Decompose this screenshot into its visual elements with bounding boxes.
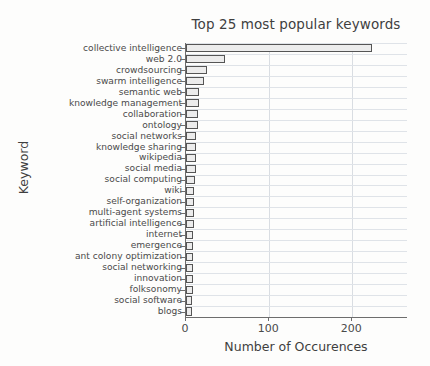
x-axis-line bbox=[185, 317, 407, 318]
y-axis-tick-label: knowledge management bbox=[4, 99, 182, 108]
bar[interactable] bbox=[186, 66, 207, 74]
bar-row[interactable] bbox=[186, 175, 408, 186]
bar[interactable] bbox=[186, 110, 198, 118]
y-axis-tick-label: ant colony optimization bbox=[4, 252, 182, 261]
x-axis-tick-mark bbox=[351, 317, 352, 321]
bar[interactable] bbox=[186, 286, 193, 294]
bar[interactable] bbox=[186, 99, 199, 107]
y-axis-tick-label: collective intelligence bbox=[4, 44, 182, 53]
bar-row[interactable] bbox=[186, 207, 408, 218]
y-axis-tick-label: emergence bbox=[4, 241, 182, 250]
bar[interactable] bbox=[186, 264, 193, 272]
bar[interactable] bbox=[186, 253, 193, 261]
y-axis-tick-label: multi-agent systems bbox=[4, 208, 182, 217]
bar[interactable] bbox=[186, 88, 199, 96]
bar-row[interactable] bbox=[186, 131, 408, 142]
bar[interactable] bbox=[186, 209, 194, 217]
plot-area bbox=[185, 43, 407, 317]
bar[interactable] bbox=[186, 77, 204, 85]
x-axis-tick-label: 200 bbox=[331, 322, 371, 335]
chart-title: Top 25 most popular keywords bbox=[185, 16, 407, 32]
bar[interactable] bbox=[186, 143, 196, 151]
bar-row[interactable] bbox=[186, 87, 408, 98]
bar[interactable] bbox=[186, 307, 192, 315]
bar-row[interactable] bbox=[186, 306, 408, 317]
x-axis-tick-label: 0 bbox=[165, 322, 205, 335]
bar[interactable] bbox=[186, 242, 193, 250]
bar[interactable] bbox=[186, 132, 196, 140]
y-axis-tick-label: self-organization bbox=[4, 197, 182, 206]
y-axis-tick-label: blogs bbox=[4, 307, 182, 316]
y-axis-tick-label: internet bbox=[4, 230, 182, 239]
bar-row[interactable] bbox=[186, 153, 408, 164]
bar-row[interactable] bbox=[186, 120, 408, 131]
x-axis-title: Number of Occurences bbox=[185, 339, 407, 354]
bar-row[interactable] bbox=[186, 98, 408, 109]
y-axis-tick-label: swarm intelligence bbox=[4, 77, 182, 86]
y-axis-tick-label: social networks bbox=[4, 132, 182, 141]
bar-row[interactable] bbox=[186, 185, 408, 196]
y-axis-tick-label: web 2.0 bbox=[4, 55, 182, 64]
bar[interactable] bbox=[186, 154, 196, 162]
y-axis-tick-label: ontology bbox=[4, 121, 182, 130]
bar[interactable] bbox=[186, 231, 193, 239]
bar[interactable] bbox=[186, 187, 194, 195]
bar-row[interactable] bbox=[186, 164, 408, 175]
y-axis-tick-label: social computing bbox=[4, 175, 182, 184]
bar[interactable] bbox=[186, 165, 196, 173]
y-axis-tick-label: folksonomy bbox=[4, 285, 182, 294]
y-axis-tick-label: wiki bbox=[4, 186, 182, 195]
bar[interactable] bbox=[186, 55, 225, 63]
y-axis-tick-label: social media bbox=[4, 164, 182, 173]
bar-row[interactable] bbox=[186, 295, 408, 306]
y-axis-tick-label: knowledge sharing bbox=[4, 143, 182, 152]
bar-row[interactable] bbox=[186, 54, 408, 65]
bar-row[interactable] bbox=[186, 262, 408, 273]
y-axis-tick-label: wikipedia bbox=[4, 153, 182, 162]
bar[interactable] bbox=[186, 198, 194, 206]
bar-row[interactable] bbox=[186, 76, 408, 87]
bar-row[interactable] bbox=[186, 65, 408, 76]
bar-row[interactable] bbox=[186, 284, 408, 295]
bar-row[interactable] bbox=[186, 273, 408, 284]
y-axis-tick-label: crowdsourcing bbox=[4, 66, 182, 75]
bar[interactable] bbox=[186, 44, 372, 52]
bar[interactable] bbox=[186, 121, 198, 129]
x-axis-tick-mark bbox=[185, 317, 186, 321]
y-axis-tick-label: social software bbox=[4, 296, 182, 305]
y-axis-tick-label: semantic web bbox=[4, 88, 182, 97]
bar-row[interactable] bbox=[186, 229, 408, 240]
y-axis-tick-label: artificial intelligence bbox=[4, 219, 182, 228]
bar-row[interactable] bbox=[186, 109, 408, 120]
bar-row[interactable] bbox=[186, 196, 408, 207]
bar-row[interactable] bbox=[186, 43, 408, 54]
bar[interactable] bbox=[186, 296, 192, 304]
bar[interactable] bbox=[186, 220, 194, 228]
x-axis-tick-label: 100 bbox=[248, 322, 288, 335]
y-axis-tick-label: collaboration bbox=[4, 110, 182, 119]
y-axis-tick-labels: collective intelligenceweb 2.0crowdsourc… bbox=[0, 43, 182, 317]
bar-row[interactable] bbox=[186, 142, 408, 153]
bar-row[interactable] bbox=[186, 240, 408, 251]
bar-row[interactable] bbox=[186, 218, 408, 229]
bar-row[interactable] bbox=[186, 251, 408, 262]
bar[interactable] bbox=[186, 176, 195, 184]
chart-figure: Top 25 most popular keywords Keyword col… bbox=[0, 0, 430, 366]
bar[interactable] bbox=[186, 275, 193, 283]
y-axis-tick-label: innovation bbox=[4, 274, 182, 283]
x-axis-tick-mark bbox=[268, 317, 269, 321]
y-axis-tick-label: social networking bbox=[4, 263, 182, 272]
